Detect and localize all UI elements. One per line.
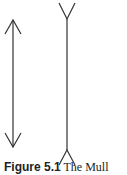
caption-text: The Mull [61,160,109,174]
right-line-with-outward-fins [59,3,75,165]
left-double-arrow [5,20,21,147]
figure-label: Figure 5.1 [4,160,61,174]
figure-caption: Figure 5.1 The Mull [4,160,108,175]
muller-lyer-diagram [0,0,127,175]
